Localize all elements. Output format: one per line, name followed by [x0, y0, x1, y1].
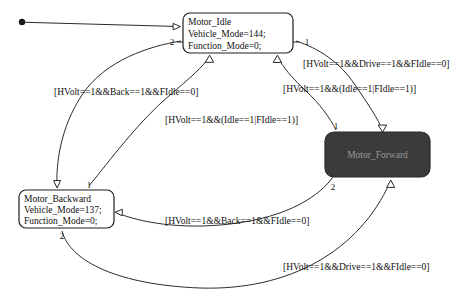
state-motor-forward-port-bottom: 2	[331, 182, 336, 192]
state-motor-idle-port-right: 1	[305, 37, 310, 47]
state-motor-backward-line-3: Function_Mode=0;	[24, 216, 97, 226]
state-motor-backward-port-bottom: 2	[60, 231, 65, 241]
transition-forward-to-backward-arrowhead	[115, 209, 123, 216]
state-motor-backward-line-2: Vehicle_Mode=137;	[24, 205, 102, 215]
transition-forward-to-idle-arrowhead	[273, 55, 281, 62]
transition-idle-to-backward-arrowhead	[54, 181, 61, 189]
state-motor-backward-port-top: 1	[87, 180, 92, 190]
transition-idle-to-backward-line	[57, 41, 181, 186]
statechart-svg: Motor_Idle Vehicle_Mode=144; Function_Mo…	[0, 0, 463, 301]
guard-backward-to-idle: [HVolt==1&&(Idle==1|FIdle==1)]	[165, 115, 298, 126]
state-motor-idle-line-3: Function_Mode=0;	[188, 41, 261, 51]
guard-forward-to-backward: [HVolt==1&&Back==1&&FIdle==0]	[165, 216, 309, 226]
state-motor-idle-port-left: 2	[170, 37, 175, 47]
guard-idle-to-forward: [HVolt==1&&Drive==1&&FIdle==0]	[303, 59, 450, 69]
state-motor-forward[interactable]: Motor_Forward 1 2	[325, 121, 430, 192]
guard-forward-to-idle: [HVolt==1&&(Idle==1|FIdle==1)]	[283, 84, 416, 95]
state-motor-forward-port-top: 1	[334, 121, 339, 131]
initial-transition-arrowhead	[173, 23, 181, 30]
initial-state-dot	[19, 19, 25, 25]
transition-idle-to-forward-arrowhead	[378, 125, 386, 132]
statechart-canvas: Motor_Idle Vehicle_Mode=144; Function_Mo…	[0, 0, 463, 301]
transition-backward-to-idle-arrowhead	[205, 55, 213, 62]
state-motor-idle-line-1: Motor_Idle	[188, 17, 231, 27]
initial-transition-line	[25, 22, 179, 26]
state-motor-backward[interactable]: Motor_Backward Vehicle_Mode=137; Functio…	[19, 180, 114, 241]
transition-idle-to-backward[interactable]	[54, 41, 181, 188]
transition-backward-to-forward-arrowhead	[387, 180, 395, 187]
guard-backward-to-forward: [HVolt==1&&Drive==1&&FIdle==0]	[283, 262, 430, 272]
state-motor-idle-line-2: Vehicle_Mode=144;	[188, 29, 266, 39]
guard-idle-to-backward: [HVolt==1&&Back==1&&FIdle==0]	[54, 87, 198, 97]
initial-transition[interactable]	[19, 19, 181, 30]
state-motor-backward-line-1: Motor_Backward	[24, 194, 91, 204]
state-motor-idle[interactable]: Motor_Idle Vehicle_Mode=144; Function_Mo…	[170, 13, 310, 53]
state-motor-forward-label: Motor_Forward	[347, 150, 408, 160]
